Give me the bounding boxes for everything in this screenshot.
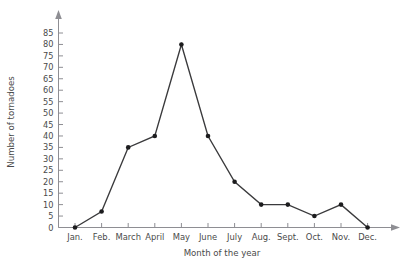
y-axis-tick-label: 55 [43,97,53,107]
data-point [153,134,158,139]
y-axis-tick-label: 80 [43,39,53,49]
data-point [339,202,344,207]
y-axis-tick-label: 50 [43,108,53,118]
x-axis-tick-label: Dec. [358,232,377,242]
data-point [99,209,104,214]
y-axis-tick-label: 85 [43,28,53,38]
y-axis-tick-label: 25 [43,165,53,175]
y-axis-tick-label: 45 [43,120,53,130]
data-point [312,214,317,219]
x-axis-tick-label: April [145,232,164,242]
y-axis-tick-label: 20 [43,177,53,187]
x-axis-tick-label: June [198,232,217,242]
data-point [259,202,264,207]
y-axis-tick-label: 40 [43,131,53,141]
x-axis-tick-label: March [115,232,141,242]
data-point [232,179,237,184]
x-axis-tick-label: Sept. [277,232,299,242]
y-axis-tick-label: 0 [48,223,53,233]
y-axis-tick-label: 75 [43,51,53,61]
x-axis-tick-label: Jan. [66,232,83,242]
x-axis-tick-label: May [173,232,190,242]
y-axis-tick-label: 10 [43,200,53,210]
x-axis-tick-label: Nov. [332,232,350,242]
x-axis-tick-label: Feb. [93,232,111,242]
tornado-line-chart: 0510152025303540455055606570758085 Jan.F… [0,0,416,268]
y-axis-tick-label: 65 [43,74,53,84]
y-axis-tick-label: 15 [43,188,53,198]
data-point [126,145,131,150]
x-axis-title: Month of the year [184,248,261,258]
chart-canvas: 0510152025303540455055606570758085 Jan.F… [0,0,416,268]
data-point [73,225,78,230]
y-axis-tick-label: 35 [43,142,53,152]
x-axis-tick-label: Aug. [252,232,271,242]
y-axis-tick-label: 70 [43,62,53,72]
y-axis-title: Number of tornadoes [6,76,16,168]
x-axis-tick-label: July [226,232,242,242]
y-axis-tick-label: 60 [43,85,53,95]
data-point [179,42,184,47]
y-axis-tick-label: 30 [43,154,53,164]
data-point [286,202,291,207]
data-point [206,134,211,139]
x-axis-tick-label: Oct. [306,232,323,242]
y-axis-tick-label: 5 [48,211,53,221]
data-point [365,225,370,230]
